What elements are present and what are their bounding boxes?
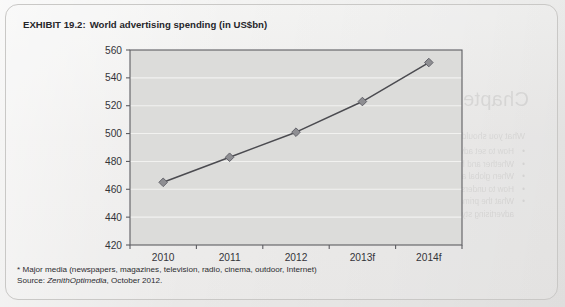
chart-footnotes: * Major media (newspapers, magazines, te…: [17, 264, 317, 287]
exhibit-card: EXHIBIT 19.2:World advertising spending …: [5, 4, 558, 300]
source-line: Source: ZenithOptimedia, October 2012.: [17, 275, 317, 286]
exhibit-title: EXHIBIT 19.2:World advertising spending …: [23, 19, 267, 30]
source-name: ZenithOptimedia: [47, 276, 106, 285]
exhibit-number-label: EXHIBIT 19.2:: [23, 19, 86, 30]
source-date: , October 2012.: [107, 276, 163, 285]
exhibit-caption: World advertising spending (in US$bn): [86, 19, 268, 30]
source-label: Source:: [17, 276, 47, 285]
footnote-major-media: * Major media (newspapers, magazines, te…: [17, 264, 317, 275]
